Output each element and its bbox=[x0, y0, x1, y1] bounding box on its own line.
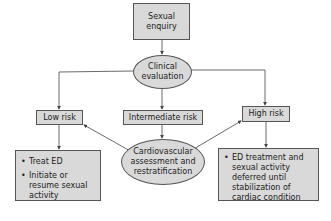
clinical-evaluation-label: Clinical evaluation bbox=[134, 62, 191, 82]
cardiovascular-assessment-label: Cardiovascular assessment and restratifi… bbox=[128, 147, 198, 177]
low-risk-label: Low risk bbox=[43, 113, 76, 123]
high-risk-box: High risk bbox=[242, 106, 290, 122]
low-risk-box: Low risk bbox=[36, 110, 83, 125]
high-risk-label: High risk bbox=[248, 109, 283, 119]
low-risk-outcome-list: Treat ED Initiate or resume sexual activ… bbox=[19, 157, 96, 201]
intermediate-risk-box: Intermediate risk bbox=[123, 110, 203, 125]
high-risk-outcome-list: ED treatment and sexual activity deferre… bbox=[222, 153, 314, 203]
list-item: Treat ED bbox=[19, 157, 96, 167]
sexual-enquiry-label: Sexual enquiry bbox=[134, 12, 189, 32]
list-item: Initiate or resume sexual activity bbox=[19, 171, 96, 201]
high-risk-outcome-box: ED treatment and sexual activity deferre… bbox=[218, 148, 319, 201]
clinical-evaluation-node: Clinical evaluation bbox=[133, 55, 192, 89]
intermediate-risk-label: Intermediate risk bbox=[129, 113, 197, 123]
low-risk-outcome-box: Treat ED Initiate or resume sexual activ… bbox=[15, 150, 101, 201]
list-item: ED treatment and sexual activity deferre… bbox=[222, 153, 314, 203]
sexual-enquiry-box: Sexual enquiry bbox=[133, 3, 190, 40]
cardiovascular-assessment-node: Cardiovascular assessment and restratifi… bbox=[121, 139, 205, 185]
